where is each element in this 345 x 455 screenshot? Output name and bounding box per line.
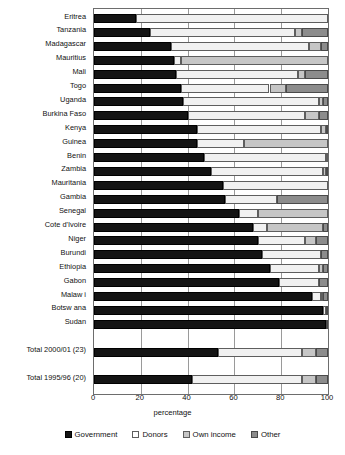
x-axis-ticks: 020406080100 [93, 393, 327, 407]
bar-segment-government [94, 292, 312, 301]
category-label: Madagascar [45, 40, 86, 48]
bar-segment-government [94, 111, 188, 120]
bar-segment-donors [253, 223, 267, 232]
x-axis-title: percentage [0, 408, 345, 417]
bar-row [94, 292, 328, 301]
category-label: Mauritania [51, 179, 86, 187]
category-label: Burundi [61, 249, 86, 257]
stacked-bar-chart: EritreaTanzaniaMadagascarMauritiusMaliTo… [0, 0, 345, 455]
legend-item: Government [65, 430, 118, 439]
bar-row [94, 28, 328, 37]
category-label: Total 2000/01 (23) [26, 346, 86, 354]
bar-segment-other [326, 320, 328, 329]
bar-segment-donors [218, 348, 302, 357]
bar-segment-own-income [302, 348, 316, 357]
bar-segment-donors [258, 236, 305, 245]
bar-segment-other [305, 70, 328, 79]
bar-segment-donors [181, 84, 270, 93]
bar-segment-government [94, 70, 176, 79]
bar-segment-government [94, 375, 192, 384]
bar-segment-other [323, 292, 328, 301]
x-tick-label: 60 [229, 393, 237, 402]
bar-segment-donors [270, 264, 319, 273]
legend-item: Donors [132, 430, 167, 439]
category-label: Sudan [65, 318, 86, 326]
bar-row [94, 14, 328, 23]
bar-segment-other [286, 84, 328, 93]
bar-segment-own-income [298, 70, 305, 79]
bar-segment-government [94, 153, 204, 162]
bar-segment-own-income [270, 84, 286, 93]
bar-row [94, 250, 328, 259]
bar-row [94, 264, 328, 273]
legend-label: Other [261, 430, 281, 439]
bar-segment-government [94, 223, 253, 232]
bar-segment-donors [225, 195, 276, 204]
bar-segment-other [277, 195, 328, 204]
bar-segment-other [326, 125, 328, 134]
bar-segment-other [316, 375, 328, 384]
bar-segment-other [316, 236, 328, 245]
bar-segment-government [94, 181, 223, 190]
bar-segment-donors [223, 181, 328, 190]
bar-segment-own-income [258, 209, 328, 218]
category-label: Botsw ana [51, 304, 86, 312]
bar-segment-other [323, 97, 328, 106]
bar-segment-own-income [302, 375, 316, 384]
bar-row [94, 111, 328, 120]
bar-row [94, 236, 328, 245]
other-swatch-icon [251, 431, 258, 438]
bar-segment-other [302, 28, 328, 37]
bar-segment-donors [150, 28, 295, 37]
category-label: Gabon [64, 277, 86, 285]
bar-segment-own-income [267, 223, 323, 232]
donors-swatch-icon [132, 431, 139, 438]
bar-segment-own-income [309, 42, 321, 51]
category-label: Gambia [60, 193, 86, 201]
bar-segment-government [94, 97, 183, 106]
category-label: Mali [72, 68, 86, 76]
bar-row [94, 125, 328, 134]
bar-row [94, 375, 328, 384]
legend-label: Own income [193, 430, 236, 439]
bar-segment-own-income [244, 139, 328, 148]
bar-segment-other [321, 42, 328, 51]
bar-segment-government [94, 84, 181, 93]
bar-segment-donors [174, 56, 181, 65]
bar-row [94, 70, 328, 79]
category-label: Kenya [65, 124, 86, 132]
bar-segment-other [326, 306, 328, 315]
bar-segment-donors [279, 278, 319, 287]
bar-segment-other [316, 348, 328, 357]
bar-row [94, 84, 328, 93]
bar-segment-government [94, 125, 197, 134]
category-label: Uganda [60, 96, 86, 104]
bar-segment-own-income [326, 153, 328, 162]
bar-segment-donors [204, 153, 326, 162]
bar-row [94, 306, 328, 315]
legend-item: Other [251, 430, 281, 439]
category-label: Niger [68, 235, 86, 243]
bar-segment-donors [183, 97, 319, 106]
bar-segment-donors [262, 250, 321, 259]
bar-segment-own-income [305, 236, 317, 245]
bar-segment-government [94, 264, 270, 273]
bar-segment-donors [197, 139, 244, 148]
government-swatch-icon [65, 431, 72, 438]
bar-segment-government [94, 14, 136, 23]
bar-segment-donors [312, 292, 321, 301]
bar-segment-donors [211, 167, 323, 176]
bar-segment-other [326, 167, 328, 176]
bar-segment-government [94, 278, 279, 287]
bar-row [94, 139, 328, 148]
bar-row [94, 195, 328, 204]
bar-row [94, 181, 328, 190]
bar-segment-donors [197, 125, 321, 134]
bar-segment-own-income [295, 28, 302, 37]
bar-segment-donors [176, 70, 298, 79]
bar-segment-government [94, 42, 171, 51]
bar-segment-own-income [181, 56, 328, 65]
bar-segment-government [94, 167, 211, 176]
bar-segment-donors [136, 14, 328, 23]
bar-segment-other [321, 250, 328, 259]
